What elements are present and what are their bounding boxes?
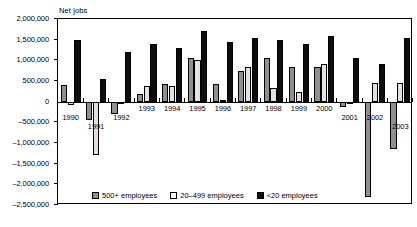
legend-swatch-icon: [92, 192, 99, 199]
bar-group: 1994: [159, 19, 184, 203]
x-tick-mark: [412, 98, 413, 102]
y-tick-mark: [54, 204, 58, 205]
legend-item: 20–499 employees: [170, 191, 243, 200]
bar: [150, 44, 156, 102]
y-tick-mark: [54, 59, 58, 60]
bar: [201, 31, 207, 101]
bar: [86, 102, 92, 121]
legend-label: 20–499 employees: [180, 191, 243, 200]
y-tick-mark: [54, 39, 58, 40]
bar: [353, 58, 359, 101]
y-tick-label: –2,500,000: [12, 200, 49, 209]
chart-legend: 500+ employees20–499 employees<20 employ…: [92, 191, 318, 200]
x-axis-year-label: 1990: [63, 113, 79, 122]
bar: [372, 83, 378, 102]
y-axis-title: Net jobs: [59, 6, 87, 15]
bar-group: 1990: [58, 19, 83, 203]
bar-group: 1999: [286, 19, 311, 203]
y-tick-label: 0: [45, 96, 49, 105]
bar: [321, 64, 327, 101]
chart-figure: Net jobs 2,000,0001,500,0001,000,000500,…: [0, 0, 417, 227]
legend-item: 500+ employees: [92, 191, 157, 200]
bar-group: 1995: [185, 19, 210, 203]
bar: [296, 92, 302, 102]
bar: [61, 85, 67, 102]
x-axis-year-label: 1992: [113, 113, 129, 122]
bar: [176, 48, 182, 102]
x-axis-year-label: 2001: [341, 113, 357, 122]
bar: [100, 79, 106, 102]
bar: [194, 60, 200, 101]
bar: [328, 36, 334, 102]
bar: [68, 102, 74, 105]
legend-label: 500+ employees: [102, 191, 157, 200]
bar: [188, 58, 194, 101]
legend-swatch-icon: [170, 192, 177, 199]
legend-label: <20 employees: [267, 191, 318, 200]
bar-group: 1992: [109, 19, 134, 203]
bar-group: 2001: [337, 19, 362, 203]
bar: [289, 67, 295, 102]
bar: [74, 40, 80, 102]
bar-group: 1996: [210, 19, 235, 203]
x-axis-year-label: 1996: [215, 104, 231, 113]
bar: [238, 71, 244, 102]
bar-group: 1993: [134, 19, 159, 203]
x-axis-year-label: 1991: [88, 122, 104, 131]
bar-group: 1997: [236, 19, 261, 203]
bar: [270, 88, 276, 102]
bar-group: 1991: [83, 19, 108, 203]
plot-area: 1990199119921993199419951996199719981999…: [57, 18, 412, 204]
x-axis-year-label: 2002: [367, 113, 383, 122]
bar: [397, 83, 403, 102]
x-axis-year-label: 1994: [164, 104, 180, 113]
y-tick-label: –1,000,000: [12, 138, 49, 147]
x-axis-year-label: 1995: [189, 104, 205, 113]
y-tick-mark: [54, 163, 58, 164]
x-axis-year-label: 1997: [240, 104, 256, 113]
legend-swatch-icon: [257, 192, 264, 199]
y-tick-label: –2,000,000: [12, 179, 49, 188]
bar: [162, 84, 168, 102]
x-axis-year-label: 2000: [316, 104, 332, 113]
bar: [379, 64, 385, 101]
y-tick-mark: [54, 183, 58, 184]
legend-item: <20 employees: [257, 191, 318, 200]
bar: [118, 102, 124, 104]
bar: [169, 86, 175, 101]
y-tick-mark: [54, 121, 58, 122]
x-axis-year-label: 2003: [392, 122, 408, 131]
bar: [144, 86, 150, 102]
bar: [220, 100, 226, 102]
bar: [303, 44, 309, 102]
y-tick-label: –500,000: [19, 117, 49, 126]
y-axis: 2,000,0001,500,0001,000,000500,0000–500,…: [0, 0, 57, 227]
bar: [404, 38, 410, 102]
bar: [213, 84, 219, 101]
bar-group: 2002: [362, 19, 387, 203]
bar-group: 1998: [261, 19, 286, 203]
bar: [264, 58, 270, 101]
x-axis-year-label: 1998: [265, 104, 281, 113]
y-tick-mark: [54, 142, 58, 143]
bar: [314, 67, 320, 102]
bar: [340, 102, 346, 107]
bar: [277, 40, 283, 102]
y-tick-mark: [54, 80, 58, 81]
bar: [227, 42, 233, 102]
bar: [137, 94, 143, 101]
y-tick-label: 1,500,000: [17, 34, 49, 43]
bar: [245, 67, 251, 102]
bar: [125, 52, 131, 102]
bar: [252, 38, 258, 102]
y-tick-label: 1,000,000: [17, 55, 49, 64]
x-axis-year-label: 1993: [139, 104, 155, 113]
bar-group: 2003: [388, 19, 413, 203]
y-tick-label: 2,000,000: [17, 14, 49, 23]
x-axis-year-label: 1999: [291, 104, 307, 113]
bar: [347, 102, 353, 104]
y-tick-label: –1,500,000: [12, 158, 49, 167]
bar-group: 2000: [312, 19, 337, 203]
y-tick-label: 500,000: [23, 76, 49, 85]
y-tick-mark: [54, 18, 58, 19]
